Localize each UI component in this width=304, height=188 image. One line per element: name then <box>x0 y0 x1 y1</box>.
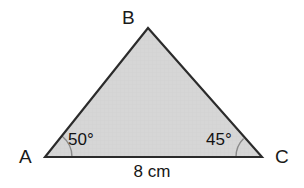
triangle-graphic <box>0 0 304 188</box>
triangle-figure: A B C 50° 45° 8 cm <box>0 0 304 188</box>
angle-label-c: 45° <box>206 131 232 148</box>
vertex-label-b: B <box>122 8 135 27</box>
side-label-ac: 8 cm <box>0 163 304 180</box>
angle-label-a: 50° <box>68 131 94 148</box>
